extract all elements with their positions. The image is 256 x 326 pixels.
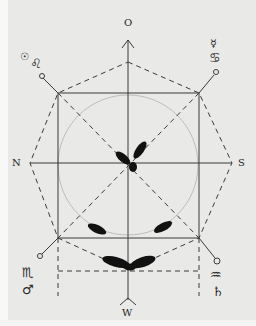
aquarius-icon: ♒ (210, 268, 222, 281)
node-bottom-left-icon (38, 254, 43, 259)
stem-bottom-right (199, 238, 215, 258)
sun-icon: ☉ (20, 52, 29, 62)
stem-bottom-left (42, 238, 58, 254)
saturn-icon: ♄ (212, 285, 224, 298)
scorpio-icon: ♏ (22, 266, 34, 279)
direction-label-bottom: W (122, 308, 132, 318)
direction-label-top: O (124, 18, 132, 28)
direction-label-left: N (12, 158, 21, 168)
blob-center-knot (129, 162, 137, 172)
blob-bottom-body (124, 264, 136, 271)
cancer-icon: ♋ (209, 51, 221, 64)
mars-icon: ♂ (22, 283, 34, 296)
node-bottom-right-icon (214, 258, 220, 264)
blob-center-right (131, 140, 149, 161)
leo-icon: ♌ (30, 57, 42, 70)
node-top-left-icon (40, 74, 45, 79)
diagram-page: O N S W ☉ ♌ ☿ ♋ ♏ ♂ ♒ ♄ (0, 0, 256, 326)
direction-label-right: S (238, 158, 245, 168)
mercury-icon: ☿ (210, 38, 217, 49)
node-top-right-icon (214, 70, 219, 75)
stem-top-left (43, 78, 58, 93)
stem-top-right (199, 75, 214, 93)
